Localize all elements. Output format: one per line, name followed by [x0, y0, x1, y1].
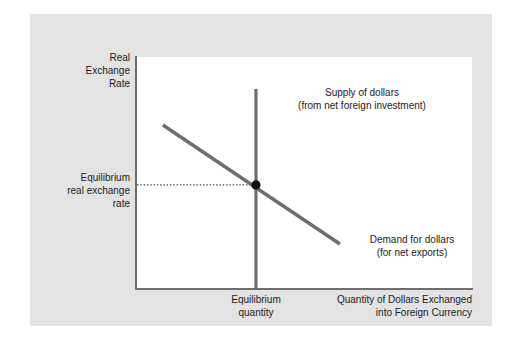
equilibrium-point — [251, 180, 260, 189]
figure-root: Real Exchange Rate Quantity of Dollars E… — [0, 0, 522, 342]
curves-layer — [0, 0, 522, 342]
